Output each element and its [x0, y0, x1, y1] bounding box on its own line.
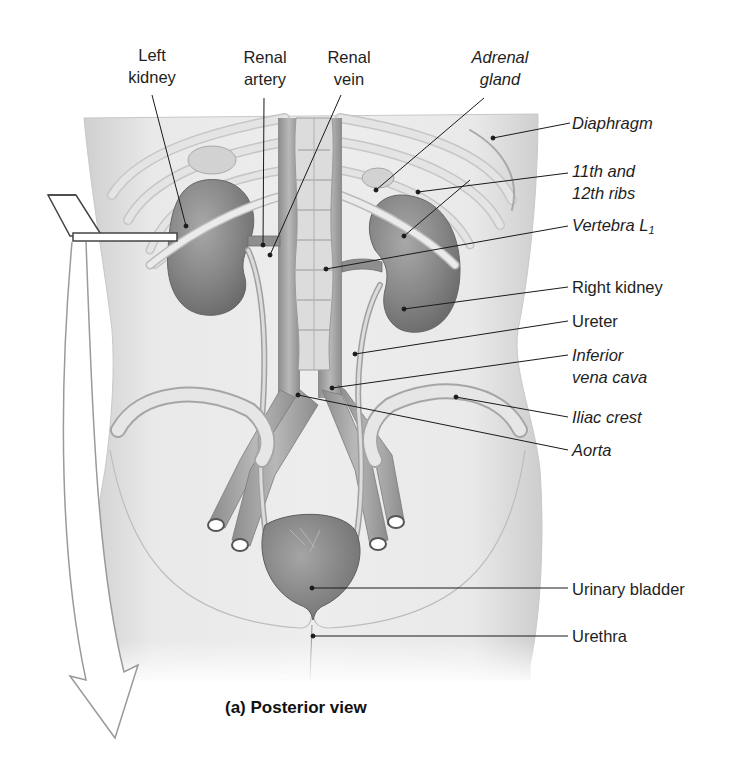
label-adrenal-gland: Adrenal gland [460, 46, 540, 90]
label-urinary-bladder: Urinary bladder [572, 578, 685, 600]
label-ureter: Ureter [572, 310, 618, 332]
label-vertebra-l1: Vertebra L1 [572, 214, 655, 241]
label-inferior-vena-cava: Inferior vena cava [572, 344, 647, 388]
label-left-kidney: Left kidney [118, 44, 186, 88]
label-right-kidney: Right kidney [572, 276, 663, 298]
label-adrenal-gland-line1: Adrenal [460, 46, 540, 68]
label-ribs-line1: 11th and [572, 160, 635, 182]
label-left-kidney-line1: Left [118, 44, 186, 66]
label-ribs: 11th and 12th ribs [572, 160, 635, 204]
label-diaphragm: Diaphragm [572, 112, 653, 134]
label-urethra: Urethra [572, 625, 627, 647]
label-iliac-crest: Iliac crest [572, 406, 642, 428]
label-renal-vein-line1: Renal [321, 46, 377, 68]
label-ribs-line2: 12th ribs [572, 182, 635, 204]
label-adrenal-gland-line2: gland [460, 68, 540, 90]
label-ivc-line1: Inferior [572, 344, 647, 366]
label-renal-vein-line2: vein [321, 68, 377, 90]
label-left-kidney-line2: kidney [118, 66, 186, 88]
label-aorta: Aorta [572, 439, 611, 461]
label-renal-artery-line1: Renal [233, 46, 297, 68]
figure-caption: (a) Posterior view [225, 698, 367, 718]
label-renal-artery-line2: artery [233, 68, 297, 90]
label-vertebra-subscript: 1 [648, 224, 654, 236]
label-renal-artery: Renal artery [233, 46, 297, 90]
label-renal-vein: Renal vein [321, 46, 377, 90]
label-ivc-line2: vena cava [572, 366, 647, 388]
label-vertebra-text: Vertebra L [572, 216, 648, 234]
